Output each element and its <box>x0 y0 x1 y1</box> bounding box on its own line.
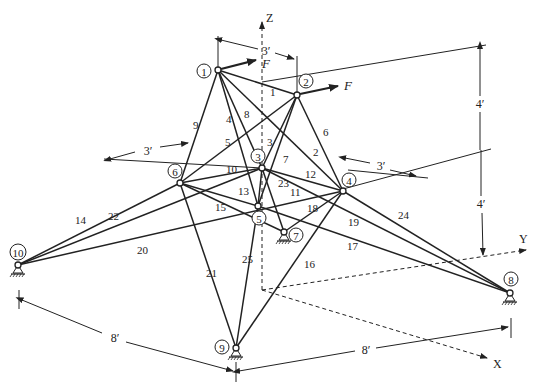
mid-plane-line <box>343 149 491 189</box>
dim-left-offset-left <box>110 152 135 159</box>
x-axis-label: X <box>493 357 502 371</box>
member-label-24: 24 <box>398 209 410 221</box>
member-label-13: 13 <box>238 185 250 197</box>
node-10-label: 10 <box>13 247 25 259</box>
space-truss-diagram: Z Y X 3′ 4′ 4′ <box>0 0 543 390</box>
member-label-22: 22 <box>108 210 119 222</box>
dim-base-right-b <box>376 327 508 348</box>
x-axis-line <box>262 290 487 358</box>
node-8-label: 8 <box>508 274 514 286</box>
member-21 <box>180 183 236 348</box>
left-ext-line <box>104 159 262 168</box>
node-3-label: 3 <box>255 151 261 163</box>
member-25 <box>236 206 258 348</box>
node-1-label: 1 <box>201 66 207 78</box>
y-axis-label: Y <box>519 232 528 246</box>
member-label-14: 14 <box>75 214 87 226</box>
member-9 <box>180 70 218 183</box>
node-4-joint <box>340 188 346 194</box>
dim-left-offset-right <box>160 143 188 147</box>
dim-right-offset-left <box>345 158 370 163</box>
dim-base-right-a <box>239 351 355 371</box>
dim-top-left <box>221 40 258 49</box>
member-label-11: 11 <box>290 186 301 198</box>
node-2-joint <box>294 92 300 98</box>
node-7-joint <box>281 229 287 235</box>
coordinate-axes: Z Y X <box>262 11 528 371</box>
force-arrow-node-1 <box>221 60 256 69</box>
member-16 <box>236 191 343 348</box>
dim-right-offset-label: 3′ <box>377 159 386 173</box>
upper-plane-line <box>262 45 486 82</box>
member-7 <box>262 95 297 168</box>
force-label-node-1: F <box>261 56 271 71</box>
dim-base-left-label: 8′ <box>111 331 120 345</box>
member-label-18: 18 <box>307 202 319 214</box>
member-label-3: 3 <box>267 136 273 148</box>
node-9-label: 9 <box>219 342 225 354</box>
force-label-node-2: F <box>343 78 353 93</box>
dim-upper-height-label: 4′ <box>476 97 485 111</box>
node-6-joint <box>177 180 183 186</box>
member-label-12: 12 <box>305 168 316 180</box>
member-label-19: 19 <box>348 216 360 228</box>
member-label-15: 15 <box>215 201 227 213</box>
node-1-joint <box>215 67 221 73</box>
applied-loads: F F <box>221 56 353 94</box>
member-labels: 1234567891011121314151617181920212223242… <box>75 86 410 279</box>
dim-lower-height-label: 4′ <box>477 197 486 211</box>
member-label-2: 2 <box>313 146 319 158</box>
member-label-8: 8 <box>244 108 250 120</box>
member-label-16: 16 <box>304 258 316 270</box>
member-label-1: 1 <box>270 86 276 98</box>
dim-base-left-a <box>22 300 102 333</box>
dim-left-offset-label: 3′ <box>144 144 153 158</box>
member-17 <box>258 206 510 293</box>
member-22 <box>18 183 180 265</box>
member-label-10: 10 <box>226 163 238 175</box>
truss-members <box>18 70 510 348</box>
node-8-joint <box>507 290 513 296</box>
node-9-joint <box>233 345 239 351</box>
dim-top-right <box>275 53 294 59</box>
y-axis-line <box>262 250 526 290</box>
node-7-label: 7 <box>293 230 299 242</box>
member-label-23: 23 <box>278 177 290 189</box>
member-label-6: 6 <box>323 126 329 138</box>
node-4-label: 4 <box>346 175 352 187</box>
node-3-joint <box>259 165 265 171</box>
member-5 <box>180 95 297 183</box>
member-label-20: 20 <box>137 244 149 256</box>
node-10-joint <box>15 262 21 268</box>
member-label-17: 17 <box>347 240 359 252</box>
dim-base-right-label: 8′ <box>362 343 371 357</box>
member-label-9: 9 <box>193 119 199 131</box>
node-5-label: 5 <box>256 213 262 225</box>
node-2-label: 2 <box>303 76 309 88</box>
node-6-label: 6 <box>172 166 178 178</box>
member-label-7: 7 <box>283 153 289 165</box>
member-label-25: 25 <box>242 253 254 265</box>
z-axis-label: Z <box>266 11 273 25</box>
member-label-21: 21 <box>206 267 217 279</box>
member-label-5: 5 <box>225 136 231 148</box>
dim-lower-height-bottom <box>482 213 483 255</box>
member-label-4: 4 <box>226 113 232 125</box>
node-5-joint <box>255 203 261 209</box>
member-6 <box>297 95 343 191</box>
